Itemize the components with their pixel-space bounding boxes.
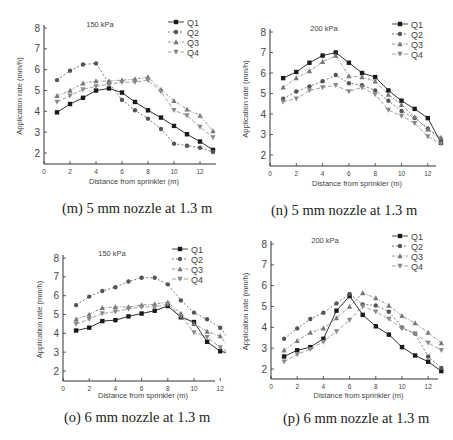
series-q4-marker: [281, 100, 286, 105]
y-tick-label: 6: [53, 290, 59, 301]
series-q4-marker: [74, 322, 79, 327]
series-q2-marker: [218, 325, 222, 329]
y-tick-label: 3: [260, 129, 266, 140]
series-q2-marker: [294, 89, 298, 93]
series-q2-marker: [120, 98, 124, 102]
y-axis-label: Application rate (mm/h): [241, 272, 250, 350]
series-q3-marker: [282, 347, 287, 352]
series-q2-marker: [55, 78, 59, 82]
series-q3: [74, 299, 227, 355]
chart-m-svg: 2345678024681012Distance from sprinkler …: [0, 0, 226, 200]
series-q2-marker: [321, 311, 325, 315]
legend-label: Q4: [191, 275, 203, 285]
chart-p-svg: 2345678024681012Distance from sprinkler …: [226, 220, 453, 400]
x-axis-label: Distance from sprinkler (m): [313, 391, 404, 400]
legend-label: Q2: [411, 242, 423, 252]
x-tick-label: 8: [146, 168, 150, 175]
chart-n-svg: 2345678024681012Distance from sprinkler …: [226, 0, 453, 200]
series-q3-marker: [67, 88, 72, 93]
series-q1-marker: [400, 345, 404, 349]
series-q4-marker: [210, 135, 215, 140]
series-q4-marker: [320, 85, 325, 90]
series-q4-marker: [282, 360, 287, 365]
x-tick-label: 10: [398, 170, 406, 177]
legend-label: Q2: [411, 30, 423, 40]
series-q1-marker: [87, 325, 91, 329]
legend-item-q4: Q4: [392, 50, 423, 60]
legend-item-q1: Q1: [168, 18, 199, 28]
series-q1-marker: [413, 353, 417, 357]
legend-item-q2: Q2: [392, 242, 423, 252]
legend-label: Q2: [191, 255, 203, 265]
y-tick-label: 5: [53, 309, 59, 320]
legend-label: Q3: [411, 252, 423, 262]
series-q4-marker: [346, 89, 351, 94]
y-tick-label: 7: [53, 271, 59, 282]
chart-panel-p: 2345678024681012Distance from sprinkler …: [226, 220, 453, 400]
series-q4-marker: [373, 310, 378, 315]
x-tick-label: 2: [295, 383, 299, 390]
legend-label: Q3: [191, 265, 203, 275]
y-tick-label: 5: [260, 88, 266, 99]
series-q2-marker: [139, 276, 143, 280]
series-q2-marker: [374, 303, 378, 307]
series-q4-marker: [399, 114, 404, 119]
y-axis-label: Application rate (mm/h): [35, 280, 44, 358]
legend-label: Q3: [411, 40, 423, 50]
x-axis-label: Distance from sprinkler (m): [98, 391, 189, 400]
chart-title: 150 kPa: [86, 20, 114, 29]
series-q2-marker: [295, 326, 299, 330]
y-tick-label: 8: [34, 23, 40, 34]
series-q2-marker: [113, 285, 117, 289]
series-q1-marker: [81, 96, 85, 100]
series-q3-marker: [373, 295, 378, 300]
series-q2-marker: [185, 144, 189, 148]
legend-item-q1: Q1: [392, 20, 423, 30]
series-q2-marker: [386, 98, 390, 102]
series-q2-marker: [373, 88, 377, 92]
series-q2-marker: [100, 289, 104, 293]
caption-o: (o) 6 mm nozzle at 1.3 m: [64, 409, 210, 426]
legend-item-q3: Q3: [172, 265, 203, 275]
series-q4-marker: [67, 94, 72, 99]
series-q3-marker: [346, 73, 351, 78]
y-tick-label: 8: [260, 27, 266, 38]
series-q1-marker: [113, 318, 117, 322]
series-q2-marker: [347, 292, 351, 296]
series-q4-marker: [334, 329, 339, 334]
chart-panel-m: 2345678024681012Distance from sprinkler …: [0, 0, 226, 220]
y-tick-label: 6: [260, 68, 266, 79]
legend-item-q4: Q4: [172, 275, 203, 285]
y-axis-label: Application rate (mm/h): [241, 60, 250, 138]
y-tick-label: 5: [34, 85, 40, 96]
series-q3-marker: [426, 330, 431, 335]
series-q2-marker: [68, 69, 72, 73]
y-tick-label: 2: [260, 150, 266, 161]
x-tick-label: 2: [294, 170, 298, 177]
series-q1-marker: [198, 139, 202, 143]
series-q2-marker: [387, 310, 391, 314]
series-q3-marker: [197, 113, 202, 118]
series-q3-marker: [320, 59, 325, 64]
series-q3-marker: [413, 320, 418, 325]
x-tick-label: 10: [170, 168, 178, 175]
series-q2: [55, 61, 215, 154]
y-axis-label: Application rate (mm/h): [15, 57, 24, 135]
legend-item-q4: Q4: [168, 48, 199, 58]
legend-q1-marker: [398, 234, 402, 238]
series-q1-marker: [282, 354, 286, 358]
series-q4-marker: [439, 348, 444, 353]
series-q2-marker: [179, 298, 183, 302]
y-tick-label: 4: [34, 106, 40, 117]
series-q4-marker: [171, 108, 176, 113]
series-q3-marker: [281, 85, 286, 90]
series-q2-marker: [94, 61, 98, 65]
series-q1-marker: [55, 110, 59, 114]
y-tick-label: 3: [53, 347, 59, 358]
series-q1-marker: [133, 100, 137, 104]
y-tick-label: 3: [34, 127, 40, 138]
x-tick-label: 12: [425, 383, 433, 390]
series-q4-marker: [295, 352, 300, 357]
x-tick-label: 4: [321, 170, 325, 177]
y-tick-label: 6: [34, 64, 40, 75]
